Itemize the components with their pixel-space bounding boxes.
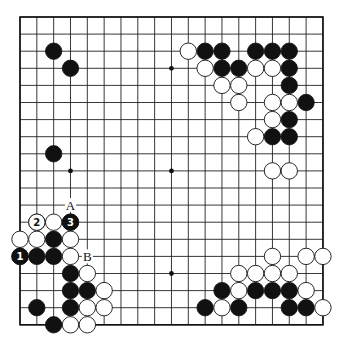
white-stone [197,60,213,76]
black-stone [62,60,78,76]
black-stone [29,300,45,316]
move-number: 3 [67,217,74,228]
black-stone [45,231,61,247]
white-stone [264,163,280,179]
white-stone [231,94,247,110]
white-stone [79,300,95,316]
black-stone [281,111,297,127]
black-stone [231,300,247,316]
star-point [169,66,174,71]
white-stone [264,111,280,127]
black-stone [62,265,78,281]
black-stone [214,60,230,76]
white-stone [12,231,28,247]
black-stone [62,300,78,316]
white-stone [298,248,314,264]
black-stone [281,282,297,298]
white-stone [281,163,297,179]
white-stone [264,248,280,264]
black-stone [29,248,45,264]
black-stone [264,43,280,59]
star-point [68,169,73,174]
white-stone [315,248,331,264]
black-stone [214,282,230,298]
black-stone [45,248,61,264]
white-stone [231,282,247,298]
white-stone [180,43,196,59]
white-stone [79,317,95,333]
white-stone [29,231,45,247]
move-number: 2 [33,217,40,228]
white-stone [214,300,230,316]
black-stone [231,60,247,76]
black-stone [45,317,61,333]
black-stone [298,300,314,316]
black-stone [197,43,213,59]
black-stone [281,77,297,93]
white-stone [45,214,61,230]
white-stone [264,60,280,76]
white-stone [315,300,331,316]
white-stone [247,60,263,76]
white-stone [96,300,112,316]
black-stone [45,43,61,59]
white-stone [264,265,280,281]
black-stone [197,300,213,316]
black-stone [281,129,297,145]
point-label-b: B [83,249,92,264]
white-stone [62,231,78,247]
white-stone [247,265,263,281]
point-label-a: A [66,198,76,213]
black-stone [264,282,280,298]
white-stone [231,265,247,281]
black-stone [62,282,78,298]
white-stone [79,265,95,281]
star-point [169,271,174,276]
black-stone [281,43,297,59]
move-number: 1 [17,251,24,262]
go-board: 123AB [0,0,346,344]
black-stone [45,146,61,162]
black-stone [79,282,95,298]
white-stone [264,94,280,110]
white-stone [281,265,297,281]
star-point [169,169,174,174]
white-stone [281,94,297,110]
black-stone [247,43,263,59]
white-stone [231,77,247,93]
black-stone [281,300,297,316]
white-stone [298,282,314,298]
white-stone [96,282,112,298]
black-stone [214,43,230,59]
white-stone [62,317,78,333]
white-stone [214,77,230,93]
black-stone [264,129,280,145]
white-stone [62,248,78,264]
white-stone [247,129,263,145]
black-stone [281,60,297,76]
black-stone [298,94,314,110]
black-stone [247,282,263,298]
